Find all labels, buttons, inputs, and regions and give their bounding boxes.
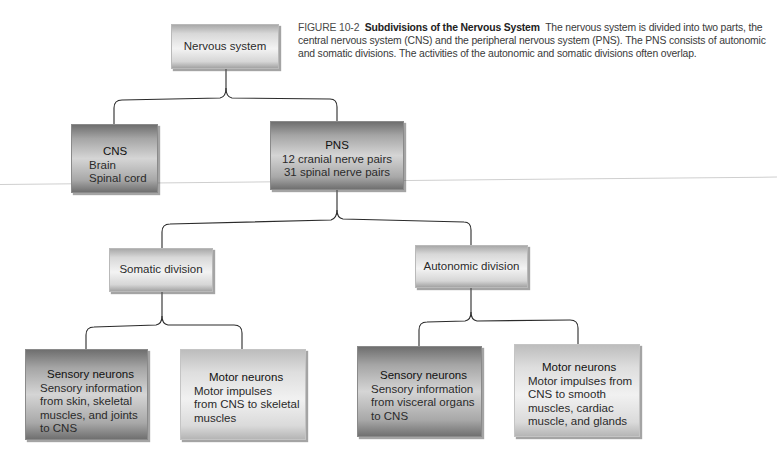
node-somatic-motor-neurons: Motor neurons Motor impulses from CNS to… (180, 349, 306, 440)
node-somatic-sensory-title: Sensory neurons (40, 368, 147, 382)
node-nervous-system: Nervous system (171, 24, 279, 69)
node-somatic-sensory-line: to CNS (40, 422, 147, 436)
node-somatic-division-label: Somatic division (119, 263, 202, 277)
node-autonomic-sensory-line: to CNS (371, 410, 481, 424)
node-somatic-sensory-neurons: Sensory neurons Sensory information from… (25, 349, 148, 440)
node-cns-title: CNS (89, 145, 157, 159)
node-somatic-motor-line: muscles (194, 412, 305, 426)
node-autonomic-motor-neurons: Motor neurons Motor impulses from CNS to… (514, 344, 640, 437)
node-nervous-system-label: Nervous system (184, 40, 266, 54)
node-autonomic-sensory-title: Sensory neurons (371, 369, 481, 383)
node-autonomic-motor-line: muscles, cardiac (528, 402, 639, 416)
node-somatic-sensory-line: Sensory information (40, 382, 147, 396)
node-autonomic-division: Autonomic division (415, 245, 528, 288)
figure-title: Subdivisions of the Nervous System (365, 22, 540, 33)
node-autonomic-division-label: Autonomic division (424, 260, 520, 274)
node-somatic-motor-title: Motor neurons (194, 371, 305, 385)
node-pns: PNS 12 cranial nerve pairs 31 spinal ner… (270, 121, 404, 190)
node-somatic-sensory-line: from skin, skeletal (40, 395, 147, 409)
node-cns-line: Brain (89, 159, 157, 173)
node-pns-title: PNS (271, 139, 403, 153)
node-autonomic-motor-line: Motor impulses from (528, 375, 639, 389)
node-pns-line: 31 spinal nerve pairs (271, 166, 403, 180)
node-pns-line: 12 cranial nerve pairs (271, 153, 403, 167)
node-autonomic-sensory-neurons: Sensory neurons Sensory information from… (357, 346, 482, 437)
node-autonomic-motor-line: CNS to smooth (528, 388, 639, 402)
node-autonomic-sensory-line: Sensory information (371, 383, 481, 397)
node-autonomic-motor-line: muscle, and glands (528, 415, 639, 429)
node-autonomic-motor-title: Motor neurons (528, 361, 639, 375)
node-somatic-sensory-line: muscles, and joints (40, 409, 147, 423)
node-cns-line: Spinal cord (89, 172, 157, 186)
node-somatic-motor-line: Motor impulses (194, 385, 305, 399)
node-autonomic-sensory-line: from visceral organs (371, 396, 481, 410)
figure-caption: FIGURE 10-2 Subdivisions of the Nervous … (298, 22, 777, 60)
node-cns: CNS Brain Spinal cord (71, 124, 158, 193)
node-somatic-division: Somatic division (109, 248, 213, 292)
node-somatic-motor-line: from CNS to skeletal (194, 398, 305, 412)
figure-label: FIGURE 10-2 (298, 22, 359, 33)
